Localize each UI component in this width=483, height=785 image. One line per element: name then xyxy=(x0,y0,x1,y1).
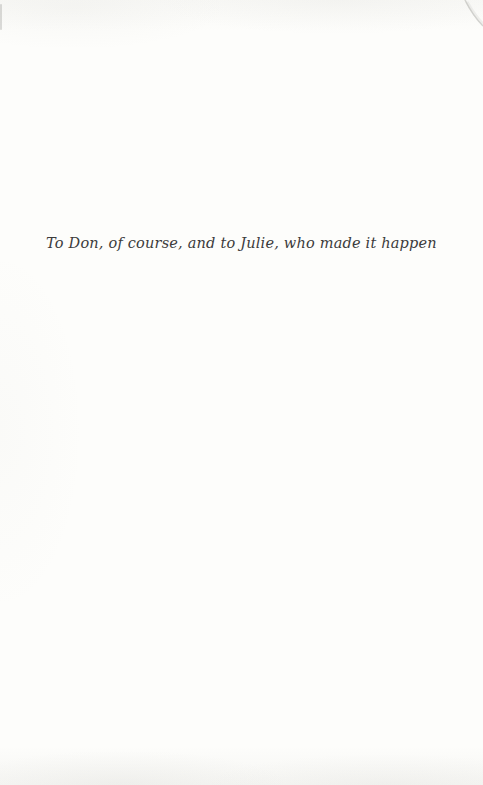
dedication-text: To Don, of course, and to Julie, who mad… xyxy=(0,234,483,253)
left-edge-scan-mark xyxy=(0,4,2,30)
scanned-book-page: To Don, of course, and to Julie, who mad… xyxy=(0,0,483,785)
scan-edge-texture xyxy=(0,0,483,785)
page-curl-crease xyxy=(423,0,483,60)
